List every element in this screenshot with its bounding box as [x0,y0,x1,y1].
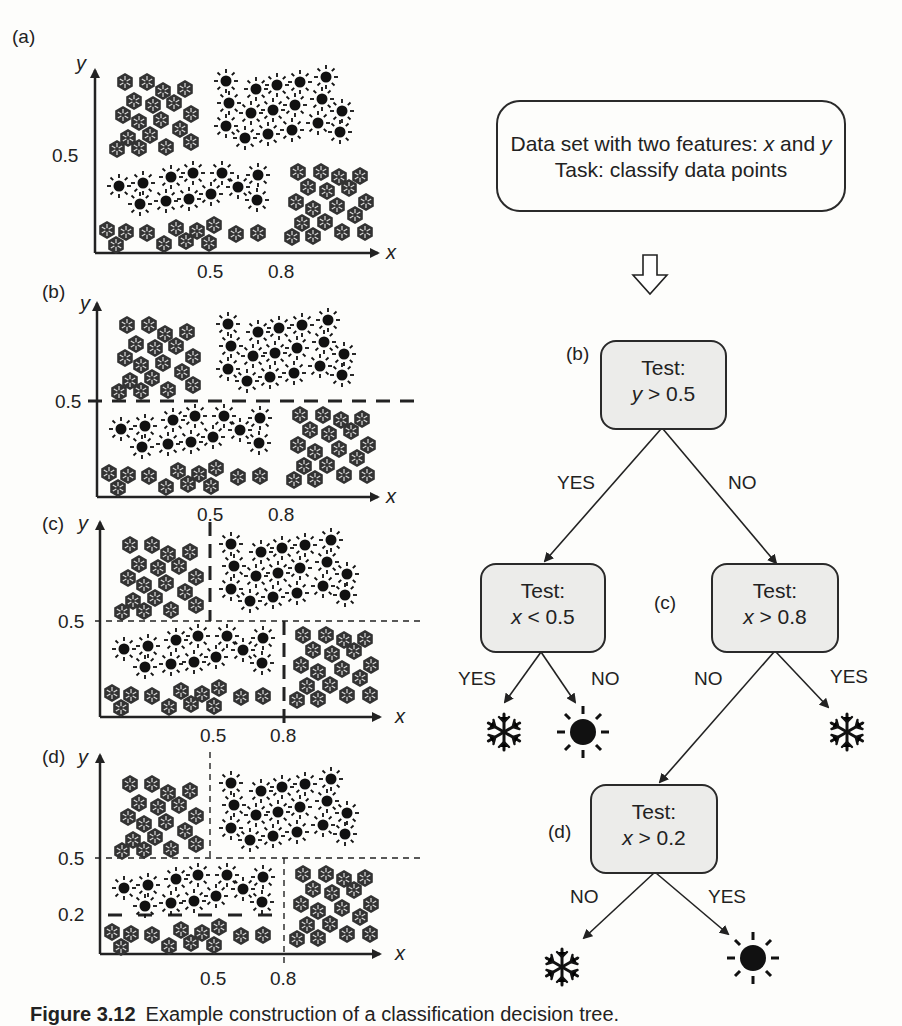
svg-text:0.8: 0.8 [268,261,294,282]
edge-label-right-yes: YES [830,666,868,688]
leaf-sun-icon [727,932,779,984]
svg-text:y: y [74,52,87,74]
right-tag: (c) [654,592,676,614]
svg-text:0.8: 0.8 [268,504,294,525]
svg-text:y: y [76,746,89,768]
panel-d: (d) y x 0.5 0.2 0.5 0.8 [42,746,420,989]
svg-text:y: y [76,512,89,534]
panel-a: (a) y x 0.5 0.5 0.8 [12,26,397,282]
leaf-snowflake-icon [546,949,577,985]
svg-text:0.8: 0.8 [270,968,296,989]
svg-text:0.2: 0.2 [58,904,84,925]
node-left-test: Test: x < 0.5 [480,563,606,653]
svg-text:0.5: 0.5 [197,261,223,282]
svg-text:0.5: 0.5 [55,391,81,412]
svg-text:0.5: 0.5 [200,725,226,746]
panel-c: (c) y x 0.5 0.5 0.8 [42,512,420,746]
edge-label-root-no: NO [728,472,757,494]
svg-text:0.5: 0.5 [52,145,78,166]
svg-text:(c): (c) [42,513,64,534]
svg-text:x: x [385,485,397,507]
root-tag: (b) [566,343,589,365]
leaf-snowflake-icon [488,714,519,750]
svg-text:0.8: 0.8 [270,725,296,746]
svg-text:y: y [78,292,91,314]
svg-text:x: x [385,241,397,263]
edge-label-left-no: NO [591,668,620,690]
task-line-2: Task: classify data points [498,157,844,183]
svg-text:0.5: 0.5 [58,848,84,869]
edge-label-bottom-yes: YES [708,886,746,908]
svg-text:(b): (b) [42,281,65,302]
svg-text:0.5: 0.5 [200,968,226,989]
svg-text:(a): (a) [12,26,35,47]
leaf-sun-icon [557,706,609,758]
figure-caption: Figure 3.12Example construction of a cla… [30,1003,619,1026]
node-bottom-test: Test: x > 0.2 [590,784,718,874]
svg-text:x: x [394,705,406,727]
edge-label-root-yes: YES [557,472,595,494]
task-line-1: Data set with two features: x and y [498,131,844,157]
panel-b: (b) y x 0.5 0.5 0.8 [42,281,420,525]
task-description-box: Data set with two features: x and y Task… [496,100,846,212]
svg-text:(d): (d) [42,746,65,767]
bottom-tag: (d) [548,821,571,843]
svg-text:0.5: 0.5 [197,504,223,525]
hollow-down-arrow [633,255,667,294]
svg-text:x: x [394,942,406,964]
svg-text:0.5: 0.5 [58,611,84,632]
edge-label-bottom-no: NO [570,886,599,908]
edge-label-right-no: NO [694,668,723,690]
edge-label-left-yes: YES [458,668,496,690]
node-root-test: Test: y > 0.5 [600,340,727,430]
node-right-test: Test: x > 0.8 [711,563,839,653]
leaf-snowflake-icon [831,714,862,750]
